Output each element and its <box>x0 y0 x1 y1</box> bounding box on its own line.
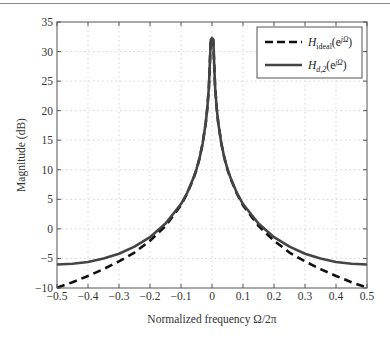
y-tick-label: 0 <box>47 223 53 235</box>
x-tick-label: −0.2 <box>140 290 161 302</box>
y-tick-label: 35 <box>42 16 54 28</box>
x-tick-label: −0.1 <box>171 290 192 302</box>
y-tick-label: 10 <box>42 164 54 176</box>
y-tick-label: −5 <box>41 252 53 264</box>
y-tick-label: −10 <box>35 282 53 294</box>
legend: Hideal(ejΩ) Hd,2(ejΩ) <box>257 27 362 78</box>
x-tick-label: 0 <box>209 290 215 302</box>
x-tick-labels: −0.5−0.4−0.3−0.2−0.100.10.20.30.40.5 <box>47 290 375 302</box>
y-axis-label: Magnitude (dB) <box>15 118 28 192</box>
x-tick-label: −0.3 <box>109 290 130 302</box>
x-tick-label: 0.4 <box>329 290 344 302</box>
x-tick-label: 0.5 <box>360 290 375 302</box>
x-tick-label: −0.4 <box>78 290 99 302</box>
magnitude-chart: −0.5−0.4−0.3−0.2−0.100.10.20.30.40.5 −10… <box>0 0 390 339</box>
y-tick-label: 30 <box>42 46 54 58</box>
y-tick-label: 15 <box>42 134 54 146</box>
y-tick-labels: −10−505101520253035 <box>35 16 53 294</box>
x-tick-label: 0.2 <box>267 290 282 302</box>
x-axis-label: Normalized frequency Ω/2π <box>147 313 276 326</box>
y-tick-label: 5 <box>47 193 53 205</box>
x-tick-label: 0.3 <box>298 290 313 302</box>
x-tick-label: 0.1 <box>236 290 251 302</box>
y-tick-label: 25 <box>42 75 54 87</box>
y-tick-label: 20 <box>42 105 54 117</box>
